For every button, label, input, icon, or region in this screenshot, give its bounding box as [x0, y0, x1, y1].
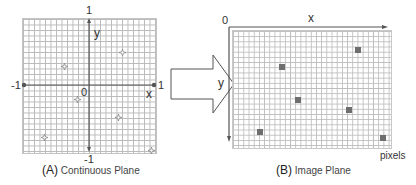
caption-text-a: Continuous Plane: [61, 165, 140, 176]
x-min-tick-label: -1: [11, 80, 21, 91]
image-pixel-square: [257, 129, 263, 135]
caption-letter-b: (B): [276, 163, 292, 177]
continuous-point-marker-icon: [148, 140, 155, 147]
caption-letter-a: (A): [42, 163, 58, 177]
pixels-unit-label: pixels: [380, 151, 406, 161]
image-pixel-square: [279, 64, 285, 70]
continuous-point-marker-icon: [115, 107, 122, 114]
image-pixel-square: [295, 97, 301, 103]
continuous-y-axis-label: y: [94, 27, 100, 39]
y-max-tick-label: 1: [86, 5, 92, 16]
continuous-origin-label: 0: [81, 87, 87, 98]
continuous-point-marker-icon: [119, 42, 126, 49]
continuous-x-axis-label: x: [146, 88, 152, 100]
image-pixel-square: [380, 135, 386, 141]
image-y-axis-label: y: [218, 77, 224, 89]
continuous-point-marker-icon: [74, 89, 81, 96]
continuous-point-marker-icon: [61, 56, 68, 63]
caption-text-b: Image Plane: [295, 165, 351, 176]
image-x-axis: [229, 25, 388, 29]
image-plane-caption: (B) Image Plane: [276, 163, 351, 177]
image-pixel-square: [346, 107, 352, 113]
continuous-point-marker-icon: [41, 127, 48, 134]
image-origin-label: 0: [222, 15, 228, 26]
image-pixel-square: [355, 47, 361, 53]
transform-arrow-icon: [171, 55, 234, 113]
image-plane-grid: [232, 30, 392, 149]
x-max-tick-label: 1: [158, 80, 164, 91]
continuous-plane-caption: (A) Continuous Plane: [42, 163, 140, 177]
image-x-axis-label: x: [308, 12, 314, 24]
